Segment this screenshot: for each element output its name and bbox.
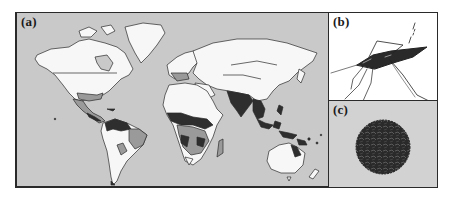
- panel-c-label: (c): [333, 102, 348, 118]
- australia: [267, 143, 305, 173]
- panel-a-label: (a): [21, 14, 37, 30]
- panel-a-world-map: (a): [15, 12, 329, 188]
- central-america: [73, 99, 105, 123]
- south-asia: [227, 91, 253, 117]
- figure: (a): [0, 0, 454, 198]
- panel-c-virus: (c): [328, 100, 438, 188]
- panel-b-label: (b): [333, 14, 350, 30]
- greenland: [125, 23, 165, 63]
- north-america: [35, 39, 133, 101]
- panel-b-mosquito: (b): [328, 12, 438, 101]
- world-map-graphic: [17, 13, 329, 188]
